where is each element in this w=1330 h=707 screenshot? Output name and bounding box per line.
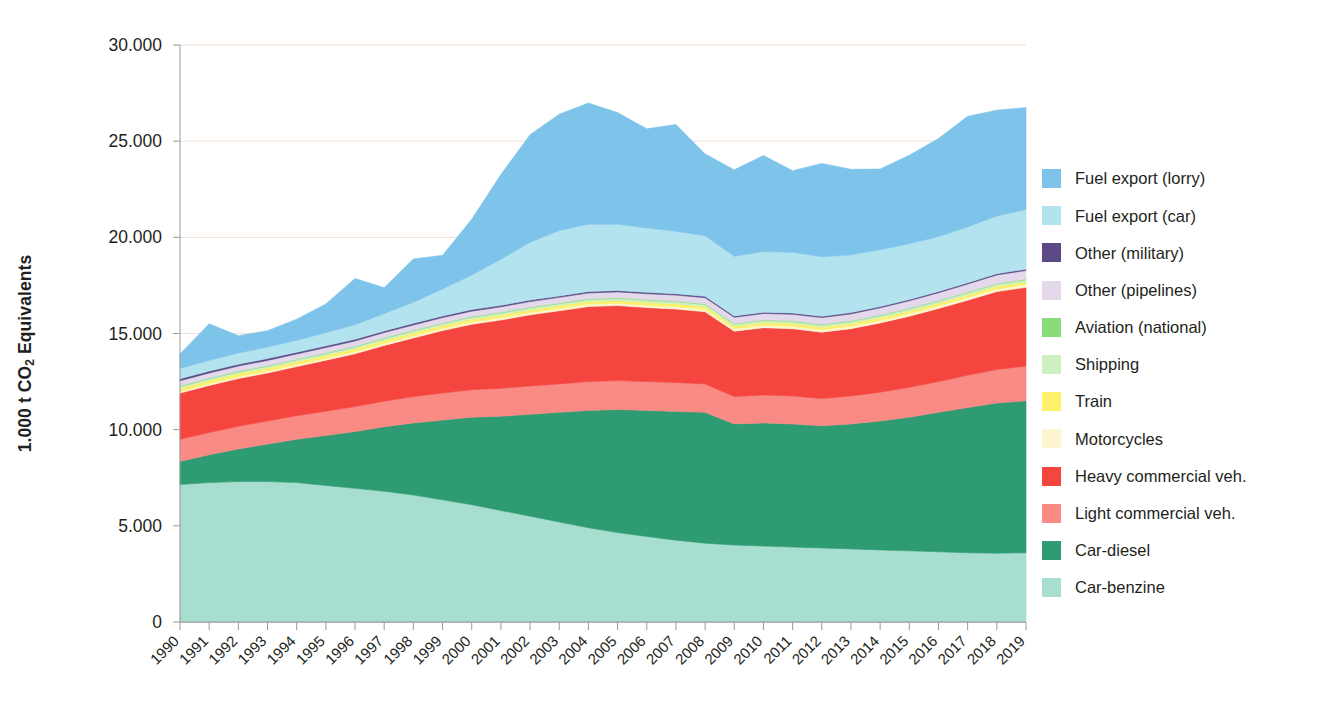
legend-item[interactable]: Light commercial veh.	[1042, 495, 1330, 532]
legend-item[interactable]: Car-diesel	[1042, 532, 1330, 569]
x-tick-label: 2012	[788, 632, 824, 668]
x-tick-label: 2006	[613, 632, 649, 668]
x-tick-label: 2010	[730, 632, 766, 668]
x-tick-label: 1991	[176, 632, 212, 668]
x-axis-ticks: 1990199119921993199419951996199719981999…	[147, 622, 1029, 668]
legend-item[interactable]: Fuel export (lorry)	[1042, 160, 1330, 197]
x-tick-label: 1993	[234, 632, 270, 668]
y-tick-label: 5.000	[118, 516, 162, 536]
x-tick-label: 2011	[760, 632, 795, 667]
legend-swatch-icon	[1042, 355, 1061, 374]
x-tick-label: 2001	[467, 632, 503, 668]
legend-swatch-icon	[1042, 429, 1061, 448]
legend-swatch-icon	[1042, 206, 1061, 225]
x-tick-label: 2002	[497, 632, 533, 668]
x-tick-label: 1998	[380, 632, 416, 668]
legend-item[interactable]: Fuel export (car)	[1042, 197, 1330, 234]
area-series-group	[180, 103, 1026, 622]
x-tick-label: 1990	[147, 632, 183, 668]
legend-item[interactable]: Motorcycles	[1042, 420, 1330, 457]
x-tick-label: 2003	[526, 632, 562, 668]
x-tick-label: 1994	[263, 632, 299, 668]
y-tick-label: 20.000	[108, 227, 162, 247]
legend-item[interactable]: Other (pipelines)	[1042, 272, 1330, 309]
legend-item[interactable]: Aviation (national)	[1042, 309, 1330, 346]
legend-item[interactable]: Car-benzine	[1042, 569, 1330, 606]
legend-swatch-icon	[1042, 541, 1061, 560]
chart-page: 1.000 t CO2 Equivalents 05.00010.00015.0…	[0, 0, 1330, 707]
legend-item-label: Car-benzine	[1075, 579, 1165, 596]
x-tick-label: 2009	[701, 632, 737, 668]
x-tick-label: 2013	[817, 632, 853, 668]
y-tick-label: 25.000	[108, 131, 162, 151]
legend-item[interactable]: Train	[1042, 383, 1330, 420]
legend-item-label: Other (pipelines)	[1075, 282, 1197, 299]
x-tick-label: 1997	[351, 632, 387, 668]
y-tick-label: 10.000	[108, 420, 162, 440]
x-tick-label: 2008	[672, 632, 708, 668]
legend-swatch-icon	[1042, 318, 1061, 337]
legend-item-label: Fuel export (car)	[1075, 208, 1196, 225]
legend-item-label: Shipping	[1075, 356, 1139, 373]
x-tick-label: 2007	[642, 632, 678, 668]
legend-item-label: Other (military)	[1075, 245, 1184, 262]
x-tick-label: 1996	[322, 632, 358, 668]
x-tick-label: 1999	[409, 632, 445, 668]
legend-item[interactable]: Shipping	[1042, 346, 1330, 383]
legend-swatch-icon	[1042, 169, 1061, 188]
legend-swatch-icon	[1042, 504, 1061, 523]
x-tick-label: 2004	[555, 632, 591, 668]
x-tick-label: 2017	[934, 632, 970, 668]
legend-item-label: Light commercial veh.	[1075, 505, 1235, 522]
x-tick-label: 2014	[847, 632, 883, 668]
legend-swatch-icon	[1042, 281, 1061, 300]
legend-item[interactable]: Heavy commercial veh.	[1042, 458, 1330, 495]
y-tick-label: 30.000	[108, 35, 162, 55]
x-tick-label: 2005	[584, 632, 620, 668]
legend-item-label: Motorcycles	[1075, 431, 1163, 448]
legend-swatch-icon	[1042, 467, 1061, 486]
y-tick-label: 15.000	[108, 324, 162, 344]
x-tick-label: 2019	[993, 632, 1029, 668]
legend-item-label: Car-diesel	[1075, 542, 1150, 559]
y-axis-ticks: 05.00010.00015.00020.00025.00030.000	[108, 35, 180, 632]
y-tick-label: 0	[152, 612, 162, 632]
legend-item[interactable]: Other (military)	[1042, 234, 1330, 271]
legend-swatch-icon	[1042, 392, 1061, 411]
x-tick-label: 2000	[438, 632, 474, 668]
x-tick-label: 2016	[905, 632, 941, 668]
legend-item-label: Aviation (national)	[1075, 319, 1207, 336]
legend-item-label: Train	[1075, 393, 1112, 410]
chart-legend: Fuel export (lorry)Fuel export (car)Othe…	[1042, 160, 1330, 606]
x-tick-label: 1995	[292, 632, 328, 668]
legend-item-label: Heavy commercial veh.	[1075, 468, 1246, 485]
legend-item-label: Fuel export (lorry)	[1075, 170, 1205, 187]
x-tick-label: 1992	[205, 632, 241, 668]
x-tick-label: 2018	[963, 632, 999, 668]
x-tick-label: 2015	[876, 632, 912, 668]
legend-swatch-icon	[1042, 578, 1061, 597]
legend-swatch-icon	[1042, 243, 1061, 262]
